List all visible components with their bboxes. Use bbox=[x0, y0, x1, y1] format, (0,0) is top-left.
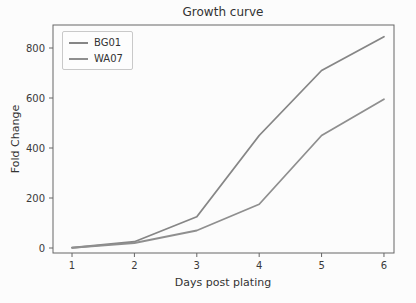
y-tick-label: 800 bbox=[26, 43, 45, 54]
legend: BG01 WA07 bbox=[62, 31, 133, 70]
y-tick-label: 0 bbox=[39, 243, 45, 254]
x-tick-label: 3 bbox=[194, 260, 200, 271]
x-tick-label: 4 bbox=[256, 260, 262, 271]
wa07-line-swatch bbox=[69, 58, 88, 60]
bg01-line-swatch bbox=[69, 42, 88, 44]
legend-label-bg01: BG01 bbox=[94, 38, 121, 48]
x-tick-label: 2 bbox=[131, 260, 137, 271]
y-tick-label: 200 bbox=[26, 193, 45, 204]
legend-entry-bg01: BG01 bbox=[69, 36, 123, 49]
legend-entry-wa07: WA07 bbox=[69, 52, 123, 65]
y-axis-label: Fold Change bbox=[9, 105, 22, 173]
legend-label-wa07: WA07 bbox=[94, 54, 123, 64]
series-line-wa07 bbox=[72, 99, 384, 248]
x-axis-label: Days post plating bbox=[175, 276, 271, 289]
x-tick-label: 5 bbox=[318, 260, 324, 271]
chart-title: Growth curve bbox=[183, 5, 264, 19]
growth-curve-figure: 1234560200400600800 Growth curve Fold Ch… bbox=[0, 0, 416, 303]
y-tick-label: 400 bbox=[26, 143, 45, 154]
y-tick-label: 600 bbox=[26, 93, 45, 104]
x-tick-label: 1 bbox=[69, 260, 75, 271]
x-tick-label: 6 bbox=[381, 260, 387, 271]
